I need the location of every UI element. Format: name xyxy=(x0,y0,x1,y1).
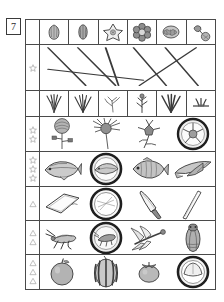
persimmon-icon xyxy=(134,259,164,285)
cells-row-grass xyxy=(40,91,215,116)
insect-on-plate-icon xyxy=(89,221,123,254)
cells-row-buds xyxy=(40,20,215,44)
triangle-marker-icon xyxy=(29,229,37,237)
star-flower-icon xyxy=(103,22,123,42)
cell-flying-fish-icon[interactable] xyxy=(171,152,215,186)
marker-gutter-1 xyxy=(26,20,40,44)
spiky-flower-icon xyxy=(89,117,123,151)
cell-cutting-board-icon[interactable] xyxy=(40,187,84,220)
cell-spiky-flower-icon[interactable] xyxy=(84,117,128,151)
cell-pompom-flower-icon[interactable] xyxy=(40,117,84,151)
star-marker-icon xyxy=(29,156,37,164)
star-marker-icon xyxy=(29,64,37,72)
cell-grass-tuft-icon[interactable] xyxy=(40,91,69,116)
cell-low-sprout-icon[interactable] xyxy=(187,91,215,116)
stemmed-flower-icon xyxy=(132,117,166,151)
flower-on-plate-icon xyxy=(176,117,210,151)
cutting-board-icon xyxy=(42,191,82,217)
cell-apple-icon[interactable] xyxy=(40,255,84,289)
cell-dragonfly-icon[interactable] xyxy=(128,221,172,254)
cell-kitchen-knife-icon[interactable] xyxy=(128,187,172,220)
triangle-marker-icon xyxy=(29,277,37,285)
cell-grasshopper-icon[interactable] xyxy=(40,221,84,254)
star-marker-icon xyxy=(29,126,37,134)
matching-table xyxy=(25,19,216,290)
fruit-on-plate-icon xyxy=(176,255,210,289)
cell-chopsticks-icon[interactable] xyxy=(171,187,215,220)
cicada-icon xyxy=(180,222,206,254)
row-insects xyxy=(26,221,215,255)
double-blossom-icon xyxy=(191,22,211,42)
seedling-icon xyxy=(131,92,153,114)
matching-lines-svg xyxy=(40,45,215,89)
cell-ruffled-blossom-icon[interactable] xyxy=(157,20,186,44)
cell-bud-icon[interactable] xyxy=(40,20,69,44)
triangle-marker-icon xyxy=(29,268,37,276)
row-buds xyxy=(26,20,215,45)
cells-row-fruit xyxy=(40,255,215,289)
apple-icon xyxy=(47,257,77,287)
star-marker-icon xyxy=(29,165,37,173)
marker-gutter-6 xyxy=(26,187,40,220)
cell-insect-on-plate-icon[interactable] xyxy=(84,221,128,254)
ruffled-blossom-icon xyxy=(161,22,181,42)
cells-row-fish xyxy=(40,152,215,186)
low-sprout-icon xyxy=(190,92,212,114)
cell-cicada-icon[interactable] xyxy=(171,221,215,254)
triangle-marker-icon xyxy=(29,259,37,267)
chopsticks-icon xyxy=(178,188,208,220)
cells-row-tools xyxy=(40,187,215,220)
marker-gutter-3 xyxy=(26,91,40,116)
cell-watermelon-icon[interactable] xyxy=(84,255,128,289)
mackerel-icon xyxy=(42,157,82,181)
cell-sea-bream-icon[interactable] xyxy=(128,152,172,186)
cell-plate-icon[interactable] xyxy=(84,187,128,220)
cell-fish-on-plate-icon[interactable] xyxy=(84,152,128,186)
triangle-marker-icon xyxy=(29,238,37,246)
row-flowers xyxy=(26,117,215,152)
cell-persimmon-icon[interactable] xyxy=(128,255,172,289)
fish-on-plate-icon xyxy=(89,152,123,186)
bud-icon xyxy=(44,22,64,42)
row-fish xyxy=(26,152,215,187)
marker-gutter-4 xyxy=(26,117,40,151)
marker-gutter-2 xyxy=(26,45,40,89)
star-marker-icon xyxy=(29,135,37,143)
cell-grass-blades-icon[interactable] xyxy=(69,91,98,116)
bud-closed-icon xyxy=(73,22,93,42)
row-tools xyxy=(26,187,215,221)
pompom-flower-icon xyxy=(45,117,79,151)
flying-fish-icon xyxy=(173,157,213,181)
cell-stemmed-flower-icon[interactable] xyxy=(128,117,172,151)
grasshopper-icon xyxy=(42,225,82,251)
cells-row-flowers xyxy=(40,117,215,151)
cell-fruit-on-plate-icon[interactable] xyxy=(171,255,215,289)
kitchen-knife-icon xyxy=(134,188,164,220)
thin-sprig-icon xyxy=(102,92,124,114)
cell-double-blossom-icon[interactable] xyxy=(187,20,215,44)
cell-flower-on-plate-icon[interactable] xyxy=(171,117,215,151)
cells-row-insects xyxy=(40,221,215,254)
triangle-marker-icon xyxy=(29,200,37,208)
grass-tuft-icon xyxy=(43,92,65,114)
cell-thin-sprig-icon[interactable] xyxy=(99,91,128,116)
row-lines xyxy=(26,45,215,90)
star-marker-icon xyxy=(29,174,37,182)
cell-bud-closed-icon[interactable] xyxy=(69,20,98,44)
cell-mackerel-icon[interactable] xyxy=(40,152,84,186)
row-fruit xyxy=(26,255,215,289)
plate-icon xyxy=(89,187,123,220)
watermelon-icon xyxy=(91,255,121,289)
cell-star-flower-icon[interactable] xyxy=(99,20,128,44)
cell-wide-grass-icon[interactable] xyxy=(157,91,186,116)
row-grass xyxy=(26,91,215,117)
cell-seedling-icon[interactable] xyxy=(128,91,157,116)
sea-bream-icon xyxy=(129,157,169,181)
dragonfly-icon xyxy=(129,224,169,252)
marker-gutter-7 xyxy=(26,221,40,254)
cell-round-blossom-icon[interactable] xyxy=(128,20,157,44)
wide-grass-icon xyxy=(160,92,182,114)
matching-lines-area[interactable] xyxy=(40,45,215,89)
marker-gutter-5 xyxy=(26,152,40,186)
worksheet-page: 7 xyxy=(0,0,224,302)
